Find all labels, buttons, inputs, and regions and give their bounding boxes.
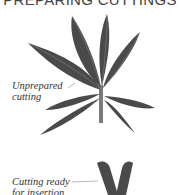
ready-label-line1: Cutting ready <box>12 176 70 187</box>
ready-cutting-label: Cutting ready for insertion <box>12 176 70 195</box>
ready-leader-line <box>72 181 98 182</box>
unprepared-cutting-label: Unprepared cutting <box>12 80 63 102</box>
ready-cutting-icon <box>97 162 133 195</box>
unprepared-label-line2: cutting <box>12 91 63 102</box>
ready-label-line2: for insertion <box>12 187 70 195</box>
unprepared-cutting-icon <box>28 14 155 135</box>
unprepared-label-line1: Unprepared <box>12 80 63 91</box>
unprepared-leader-line <box>68 83 75 88</box>
